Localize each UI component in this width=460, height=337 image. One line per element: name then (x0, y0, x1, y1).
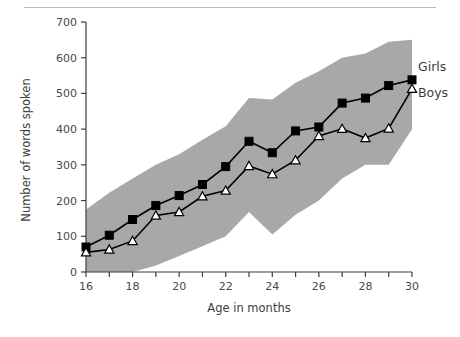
data-point-marker (222, 163, 230, 171)
x-axis-tick-labels: 1618202224262830 (79, 280, 419, 293)
range-band-area (86, 40, 412, 272)
data-point-marker (361, 94, 369, 102)
x-tick-label: 20 (172, 280, 186, 293)
data-point-marker (129, 216, 137, 224)
x-tick-label: 30 (405, 280, 419, 293)
y-tick-label: 400 (56, 123, 77, 136)
y-tick-label: 200 (56, 195, 77, 208)
x-tick-label: 26 (312, 280, 326, 293)
x-tick-label: 24 (265, 280, 279, 293)
y-tick-label: 100 (56, 230, 77, 243)
x-tick-label: 28 (358, 280, 372, 293)
words-spoken-line-chart: 0100200300400500600700 1618202224262830 … (0, 0, 460, 337)
data-point-marker (198, 181, 206, 189)
y-tick-label: 600 (56, 52, 77, 65)
data-point-marker (152, 202, 160, 210)
chart-figure: 0100200300400500600700 1618202224262830 … (0, 0, 460, 337)
y-axis-title: Number of words spoken (19, 78, 33, 221)
y-tick-label: 300 (56, 159, 77, 172)
y-tick-label: 500 (56, 87, 77, 100)
data-point-marker (292, 127, 300, 135)
series-label-boys: Boys (418, 85, 448, 100)
data-point-marker (175, 192, 183, 200)
y-axis-ticks (81, 22, 86, 272)
x-tick-label: 22 (219, 280, 233, 293)
x-axis-title: Age in months (207, 301, 290, 315)
series-label-girls: Girls (418, 59, 446, 74)
data-point-marker (245, 137, 253, 145)
data-point-marker (408, 76, 416, 84)
data-point-marker (385, 82, 393, 90)
data-point-marker (338, 99, 346, 107)
y-tick-label: 700 (56, 16, 77, 29)
x-tick-label: 18 (126, 280, 140, 293)
x-tick-label: 16 (79, 280, 93, 293)
data-point-marker (105, 231, 113, 239)
data-point-marker (315, 123, 323, 131)
data-point-marker (268, 149, 276, 157)
x-axis-ticks (86, 272, 412, 277)
y-axis-tick-labels: 0100200300400500600700 (56, 16, 77, 279)
y-tick-label: 0 (70, 266, 77, 279)
